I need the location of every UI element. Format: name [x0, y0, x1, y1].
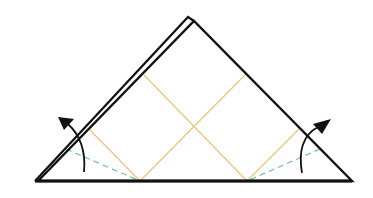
left-fold-arrow-icon	[58, 117, 84, 172]
origami-diagram	[0, 0, 373, 198]
triangle-front-layer	[35, 21, 352, 181]
valley-fold-line-right	[247, 149, 320, 181]
crease-line	[140, 75, 245, 181]
triangle-back-layer	[35, 17, 194, 181]
valley-fold-line-left	[66, 149, 140, 181]
crease-line	[88, 128, 140, 181]
valley-fold-lines	[66, 149, 320, 181]
crease-line	[144, 75, 247, 181]
crease-line	[247, 128, 300, 181]
